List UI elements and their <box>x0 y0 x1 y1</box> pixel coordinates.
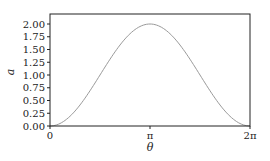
y-tick-label: 0.25 <box>23 108 45 119</box>
x-tick-label: 2π <box>244 130 257 141</box>
y-tick-label: 1.00 <box>23 70 45 81</box>
chart: 0.000.250.500.751.001.251.501.752.00 0π2… <box>0 0 270 161</box>
y-tick-label: 2.00 <box>23 19 45 30</box>
x-tick-label: 0 <box>47 130 53 141</box>
data-series-curve <box>50 24 250 126</box>
y-tick-label: 0.50 <box>23 95 45 106</box>
plot-area <box>50 14 250 126</box>
y-tick-label: 0.00 <box>23 121 45 132</box>
y-axis-label: a <box>4 69 17 76</box>
y-axis-ticks: 0.000.250.500.751.001.251.501.752.00 <box>23 19 50 132</box>
x-tick-label: π <box>147 130 154 141</box>
y-tick-label: 1.25 <box>23 57 45 68</box>
x-axis-label: θ <box>147 141 154 154</box>
y-tick-label: 1.50 <box>23 44 45 55</box>
y-tick-label: 1.75 <box>23 31 45 42</box>
y-tick-label: 0.75 <box>23 82 45 93</box>
x-axis-ticks: 0π2π <box>47 126 257 141</box>
axes-frame <box>50 14 250 126</box>
